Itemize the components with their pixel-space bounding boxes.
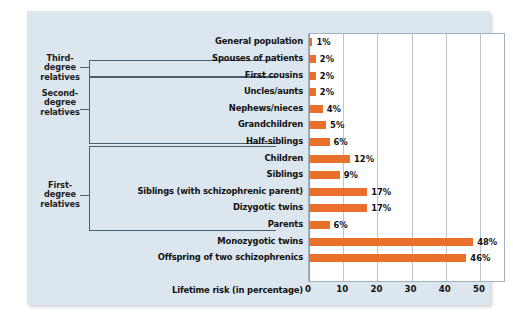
bar-value-label: 6% <box>334 137 348 147</box>
bar <box>309 138 330 146</box>
plot-area: 1%2%2%2%4%5%6%12%9%17%17%6%48%46% <box>308 33 505 282</box>
bar-value-label: 2% <box>320 71 334 81</box>
category-label: Grandchildren <box>238 119 303 129</box>
bar <box>309 88 316 96</box>
bar <box>309 155 350 163</box>
bar-value-label: 2% <box>320 87 334 97</box>
x-axis-caption: Lifetime risk (in percentage) <box>57 285 303 295</box>
bar <box>309 188 367 196</box>
category-label: Siblings (with schizophrenic parent) <box>137 186 303 196</box>
bar <box>309 238 473 246</box>
category-label: Children <box>265 153 303 163</box>
bar-value-label: 46% <box>470 253 490 263</box>
bar-value-label: 48% <box>477 237 497 247</box>
chart-panel: Third- degree relatives Second- degree r… <box>27 11 490 305</box>
bar <box>309 171 340 179</box>
bar <box>309 204 367 212</box>
bar-value-label: 2% <box>320 54 334 64</box>
bar <box>309 121 326 129</box>
bar <box>309 254 466 262</box>
category-label: Siblings <box>267 169 303 179</box>
bar <box>309 105 323 113</box>
bar <box>309 38 312 46</box>
category-label: Uncles/aunts <box>244 86 303 96</box>
x-tick-label-40: 40 <box>433 284 457 294</box>
category-label: Half-siblings <box>246 136 303 146</box>
category-label: First cousins <box>245 70 303 80</box>
category-label: General population <box>215 36 303 46</box>
bar-value-label: 17% <box>371 187 391 197</box>
category-label: Parents <box>268 219 303 229</box>
x-tick-label-20: 20 <box>364 284 388 294</box>
bar <box>309 72 316 80</box>
category-label-column: General populationSpouses of patientsFir… <box>57 11 303 305</box>
category-label: Dizygotic twins <box>233 202 303 212</box>
x-tick-label-30: 30 <box>399 284 423 294</box>
category-label: Spouses of patients <box>212 53 303 63</box>
bar-value-label: 1% <box>316 37 330 47</box>
x-tick-label-10: 10 <box>330 284 354 294</box>
category-label: Monozygotic twins <box>217 236 303 246</box>
category-label: Offspring of two schizophrenics <box>158 252 303 262</box>
bar-value-label: 9% <box>344 170 358 180</box>
bar-value-label: 5% <box>330 120 344 130</box>
bar-value-label: 17% <box>371 203 391 213</box>
bar-value-label: 4% <box>327 104 341 114</box>
bar <box>309 221 330 229</box>
bar <box>309 55 316 63</box>
bar-value-label: 12% <box>354 154 374 164</box>
x-tick-label-50: 50 <box>467 284 491 294</box>
x-axis: 01020304050 <box>308 284 513 298</box>
bar-value-label: 6% <box>334 220 348 230</box>
category-label: Nephews/nieces <box>229 103 303 113</box>
